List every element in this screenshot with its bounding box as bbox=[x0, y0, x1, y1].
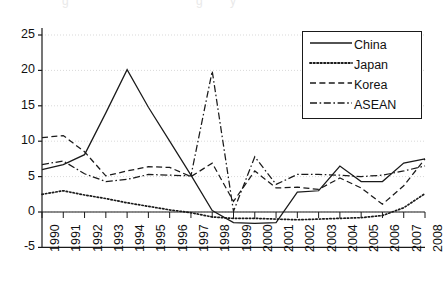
x-tick-label: 2007 bbox=[410, 225, 424, 253]
x-tick-label: 2005 bbox=[367, 225, 381, 253]
legend-label: China bbox=[354, 35, 396, 55]
legend-key-asean bbox=[308, 95, 354, 115]
y-tick-label: -5 bbox=[2, 239, 35, 253]
x-tick-label: 1997 bbox=[197, 225, 211, 253]
legend-label: ASEAN bbox=[354, 95, 396, 115]
x-tick-label: 2003 bbox=[325, 225, 339, 253]
series-line-korea bbox=[42, 136, 425, 205]
x-tick-label: 2004 bbox=[346, 225, 360, 253]
y-tick-label: 10 bbox=[2, 133, 35, 147]
chart-legend: ChinaJapanKoreaASEAN bbox=[302, 31, 422, 119]
x-tick-label: 2006 bbox=[388, 225, 402, 253]
y-tick-label: 5 bbox=[2, 169, 35, 183]
x-tick-label: 2000 bbox=[261, 225, 275, 253]
legend-line-sample bbox=[308, 75, 354, 91]
legend-key-korea bbox=[308, 75, 354, 95]
legend-key-japan bbox=[308, 55, 354, 75]
y-tick-label: 25 bbox=[2, 27, 35, 41]
x-tick-label: 1999 bbox=[240, 225, 254, 253]
legend-entry: China bbox=[308, 35, 396, 55]
y-tick-label: 0 bbox=[2, 204, 35, 218]
x-tick-label: 2001 bbox=[282, 225, 296, 253]
legend-line-sample bbox=[308, 55, 354, 71]
y-tick-label: 15 bbox=[2, 98, 35, 112]
x-tick-label: 1992 bbox=[91, 225, 105, 253]
x-tick-label: 1991 bbox=[69, 225, 83, 253]
legend-label: Korea bbox=[354, 75, 396, 95]
x-tick-label: 2008 bbox=[431, 225, 445, 253]
x-tick-label: 1993 bbox=[112, 225, 126, 253]
legend-entry: Japan bbox=[308, 55, 396, 75]
x-tick-label: 2002 bbox=[303, 225, 317, 253]
x-tick-label: 1994 bbox=[133, 225, 147, 253]
legend-line-sample bbox=[308, 95, 354, 111]
legend-line-sample bbox=[308, 35, 354, 51]
legend-key-china bbox=[308, 35, 354, 55]
x-tick-label: 1996 bbox=[176, 225, 190, 253]
x-tick-label: 1998 bbox=[218, 225, 232, 253]
x-tick-label: 1990 bbox=[48, 225, 62, 253]
legend-entry: Korea bbox=[308, 75, 396, 95]
legend-table: ChinaJapanKoreaASEAN bbox=[308, 35, 396, 115]
x-tick-label: 1995 bbox=[154, 225, 168, 253]
y-tick-label: 20 bbox=[2, 62, 35, 76]
legend-entry: ASEAN bbox=[308, 95, 396, 115]
legend-label: Japan bbox=[354, 55, 396, 75]
